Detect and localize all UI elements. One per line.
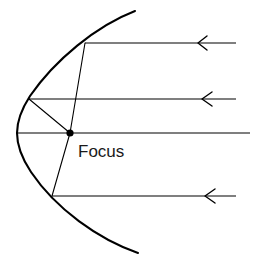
parabola-mirror-curve <box>17 11 138 253</box>
reflected-ray-from-upper-middle <box>29 99 70 133</box>
parabolic-reflector-diagram: Focus <box>0 0 254 263</box>
focus-label: Focus <box>78 142 124 161</box>
reflected-ray-from-top <box>70 43 85 133</box>
reflected-ray-from-bottom <box>52 133 70 196</box>
focus-point-dot <box>66 129 73 136</box>
diagram-canvas: Focus <box>0 0 254 263</box>
